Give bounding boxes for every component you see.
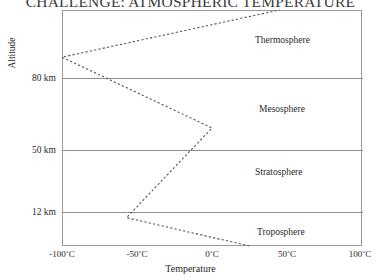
plot-area: Thermosphere Mesosphere Stratosphere Tro… [62, 10, 362, 246]
y-tick-label-12km: 12 km [4, 207, 56, 217]
x-axis-title: Temperature [0, 263, 381, 274]
layer-label-thermosphere: Thermosphere [255, 35, 310, 45]
x-tick-label-minus50: -50˚C [107, 249, 167, 259]
x-tick-label-100: 100˚C [330, 249, 381, 259]
y-axis-title: Altitude [7, 37, 17, 68]
layer-divider-50km [63, 150, 363, 151]
layer-label-stratosphere: Stratosphere [255, 167, 303, 177]
layer-divider-12km [63, 212, 363, 213]
layer-label-mesosphere: Mesosphere [259, 104, 305, 114]
y-tick-label-50km: 50 km [4, 145, 56, 155]
layer-divider-80km [63, 78, 363, 79]
x-tick-label-minus100: -100˚C [32, 249, 92, 259]
chart-title: CHALLENGE: ATMOSPHERIC TEMPERATURE [0, 0, 381, 9]
layer-label-troposphere: Troposphere [257, 227, 305, 237]
x-tick-label-50: 50˚C [257, 249, 317, 259]
y-tick-label-80km: 80 km [4, 73, 56, 83]
atmospheric-temperature-chart: CHALLENGE: ATMOSPHERIC TEMPERATURE Altit… [0, 0, 381, 280]
x-tick-label-zero: 0˚C [182, 249, 242, 259]
